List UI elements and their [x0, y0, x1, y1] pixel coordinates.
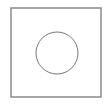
inner-circle: [36, 32, 78, 74]
diagram-canvas: [0, 0, 107, 106]
outer-square: [11, 8, 101, 97]
